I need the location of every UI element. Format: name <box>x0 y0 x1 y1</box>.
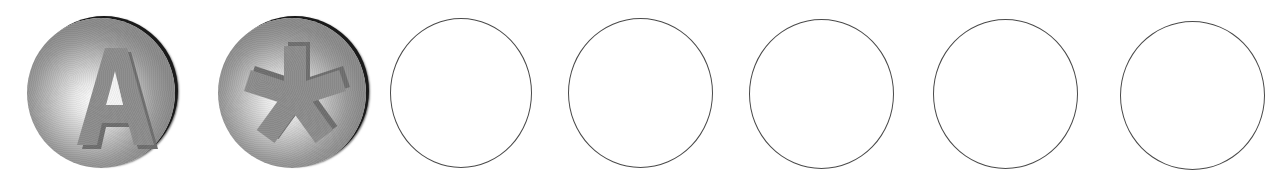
icon-row: A <box>0 0 1276 183</box>
asterisk-ball: * <box>218 18 366 168</box>
letter-a-icon: A <box>27 18 175 168</box>
asterisk-icon: * <box>218 18 366 168</box>
empty-circle[interactable] <box>1120 21 1265 170</box>
empty-circle[interactable] <box>568 18 713 168</box>
empty-circle[interactable] <box>749 19 894 169</box>
letter-a-ball: A <box>27 18 175 168</box>
empty-circle[interactable] <box>390 18 532 168</box>
empty-circle[interactable] <box>933 19 1078 169</box>
